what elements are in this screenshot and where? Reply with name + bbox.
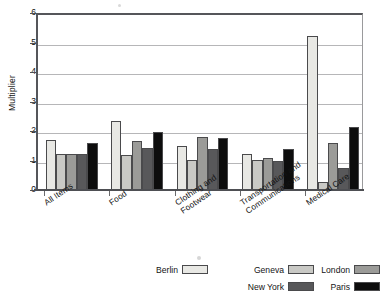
legend-row: BerlinGenevaLondon — [144, 262, 382, 277]
bar-group — [307, 15, 359, 190]
bar[interactable] — [77, 154, 87, 190]
bar[interactable] — [242, 154, 252, 190]
bar[interactable] — [349, 127, 359, 190]
scan-artifact-dot — [197, 256, 201, 260]
x-tick-mark — [109, 191, 110, 196]
legend-label: Paris — [330, 282, 350, 292]
legend-swatch — [354, 265, 380, 274]
legend-label: Berlin — [156, 265, 178, 275]
bar-group — [111, 15, 163, 190]
x-tick-mark — [240, 191, 241, 196]
x-tick-mark — [175, 191, 176, 196]
legend-label: London — [321, 265, 350, 275]
bar[interactable] — [153, 132, 163, 190]
bar[interactable] — [132, 141, 142, 190]
x-tick-mark — [44, 191, 45, 196]
bar[interactable] — [307, 36, 317, 190]
bar[interactable] — [121, 155, 131, 190]
bar-group — [46, 15, 98, 190]
legend-row: New YorkParis — [144, 279, 382, 294]
bar-chart-figure: Multiplier 0123456 All ItemsFoodClothing… — [0, 0, 382, 302]
legend-swatch — [288, 265, 314, 274]
x-category-label: Food — [107, 188, 129, 207]
bar[interactable] — [111, 121, 121, 190]
bar[interactable] — [46, 140, 56, 190]
scan-artifact-dot-top — [118, 4, 121, 7]
bar[interactable] — [177, 146, 187, 190]
bar[interactable] — [87, 143, 97, 190]
legend-swatch — [288, 282, 314, 291]
legend-swatch — [182, 265, 208, 274]
legend-item-new-york[interactable]: New York — [236, 279, 314, 294]
legend-label: Geneva — [254, 265, 284, 275]
legend-item-london[interactable]: London — [316, 262, 380, 277]
chart-legend: BerlinGenevaLondonNew YorkParis — [144, 262, 382, 298]
legend-item-berlin[interactable]: Berlin — [144, 262, 208, 277]
bar[interactable] — [142, 148, 152, 190]
legend-item-paris[interactable]: Paris — [316, 279, 380, 294]
bar-group — [177, 15, 229, 190]
x-tick-mark — [305, 191, 306, 196]
legend-item-geneva[interactable]: Geneva — [236, 262, 314, 277]
legend-swatch — [354, 282, 380, 291]
plot-area — [36, 13, 363, 190]
bar-group — [242, 15, 294, 190]
legend-label: New York — [248, 282, 284, 292]
y-axis-ticks: 0123456 — [0, 0, 36, 302]
